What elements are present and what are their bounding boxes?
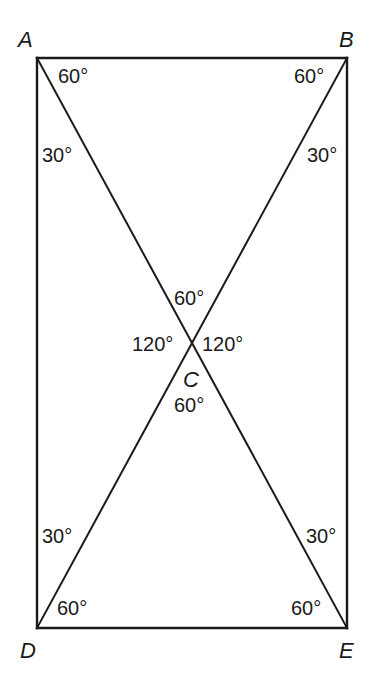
angle-label-a-top: 60° [58, 65, 88, 87]
vertex-label-e: E [339, 638, 354, 663]
angle-label-e-side: 30° [306, 525, 336, 547]
vertex-label-d: D [20, 638, 36, 663]
angle-label-c-right: 120° [202, 333, 243, 355]
angle-label-d-side: 30° [42, 525, 72, 547]
angle-label-d-bottom: 60° [57, 597, 87, 619]
vertex-label-c: C [183, 367, 199, 392]
rectangle-diagonals-diagram: ABDEC 60°30°60°30°60°120°120°60°30°60°30… [0, 0, 371, 699]
angle-label-e-bottom: 60° [291, 597, 321, 619]
edges-group [37, 58, 347, 628]
angle-label-a-side: 30° [42, 144, 72, 166]
vertex-label-a: A [16, 27, 33, 52]
angle-label-c-top: 60° [174, 287, 204, 309]
angle-label-b-side: 30° [307, 144, 337, 166]
vertex-label-b: B [339, 27, 354, 52]
vertex-labels-group: ABDEC [16, 27, 354, 663]
angle-label-c-left: 120° [132, 333, 173, 355]
angle-label-b-top: 60° [294, 65, 324, 87]
angle-label-c-bottom: 60° [174, 394, 204, 416]
